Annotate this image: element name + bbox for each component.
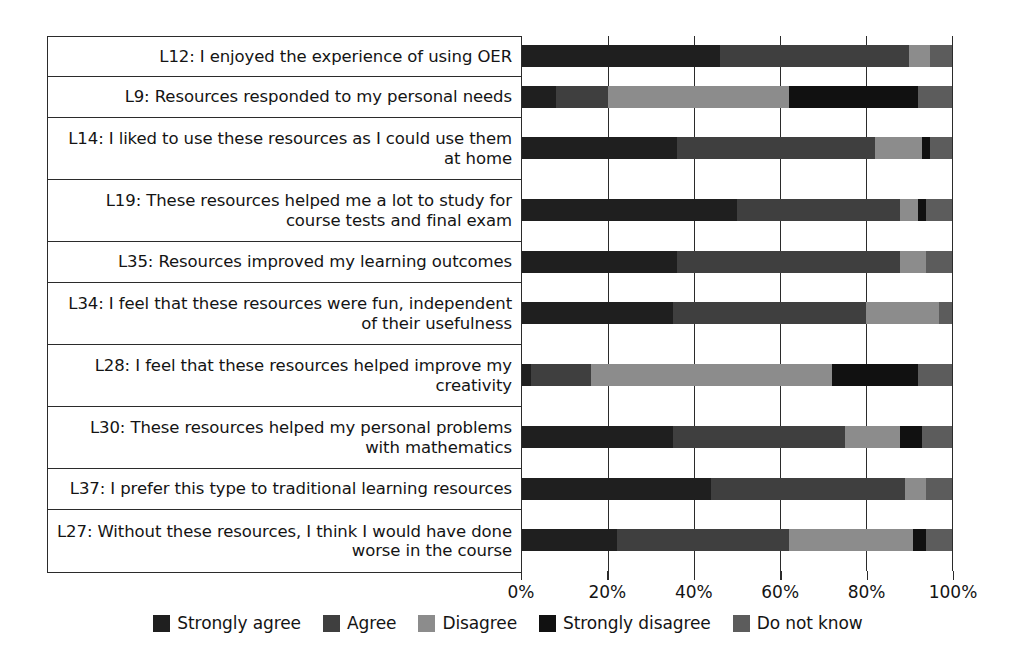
bar-segment bbox=[909, 45, 931, 67]
bar-segment bbox=[926, 478, 952, 500]
bar-segment bbox=[522, 529, 617, 551]
bar-row bbox=[522, 282, 952, 344]
bar-segment bbox=[556, 86, 608, 108]
bar-segment bbox=[845, 426, 901, 448]
legend-swatch-icon bbox=[733, 615, 750, 632]
bar-segment bbox=[711, 478, 905, 500]
x-axis-tick bbox=[867, 571, 868, 580]
bar-segment bbox=[522, 302, 673, 324]
bar-segment bbox=[522, 137, 677, 159]
stacked-bar bbox=[522, 302, 952, 324]
bar-row bbox=[522, 179, 952, 241]
bar-segment bbox=[922, 426, 952, 448]
category-label: L34: I feel that these resources were fu… bbox=[48, 283, 521, 345]
bar-segment bbox=[922, 137, 931, 159]
category-label-column: L12: I enjoyed the experience of using O… bbox=[47, 36, 521, 573]
category-label: L28: I feel that these resources helped … bbox=[48, 345, 521, 407]
bar-segment bbox=[832, 364, 918, 386]
bar-row bbox=[522, 406, 952, 468]
x-axis-tick-label: 100% bbox=[929, 582, 978, 602]
bar-segment bbox=[522, 45, 720, 67]
legend-label: Disagree bbox=[442, 613, 517, 633]
legend-item: Strongly agree bbox=[153, 613, 301, 633]
stacked-bar bbox=[522, 364, 952, 386]
x-axis-tick-label: 20% bbox=[588, 582, 626, 602]
legend-label: Agree bbox=[347, 613, 396, 633]
category-label: L30: These resources helped my personal … bbox=[48, 407, 521, 469]
bar-segment bbox=[926, 529, 952, 551]
bar-segment bbox=[875, 137, 922, 159]
legend-item: Do not know bbox=[733, 613, 863, 633]
bar-segment bbox=[673, 426, 845, 448]
bar-segment bbox=[522, 251, 677, 273]
stacked-bar bbox=[522, 478, 952, 500]
bar-segment bbox=[939, 302, 952, 324]
bar-segment bbox=[608, 86, 789, 108]
bar-segment bbox=[522, 86, 556, 108]
stacked-bar-chart: L12: I enjoyed the experience of using O… bbox=[0, 0, 1016, 649]
x-axis-tick-label: 0% bbox=[508, 582, 535, 602]
category-label: L37: I prefer this type to traditional l… bbox=[48, 469, 521, 510]
bar-segment bbox=[926, 199, 952, 221]
bar-segment bbox=[591, 364, 832, 386]
bar-segment bbox=[900, 199, 917, 221]
bar-row bbox=[522, 468, 952, 509]
x-axis-tick-label: 40% bbox=[675, 582, 713, 602]
bar-segment bbox=[617, 529, 789, 551]
bar-segment bbox=[918, 364, 952, 386]
legend-swatch-icon bbox=[418, 615, 435, 632]
bar-row bbox=[522, 344, 952, 406]
legend-label: Do not know bbox=[757, 613, 863, 633]
stacked-bar bbox=[522, 199, 952, 221]
x-axis-tick-label: 60% bbox=[761, 582, 799, 602]
legend-label: Strongly disagree bbox=[563, 613, 711, 633]
legend-label: Strongly agree bbox=[177, 613, 301, 633]
chart-legend: Strongly agreeAgreeDisagreeStrongly disa… bbox=[0, 613, 1016, 633]
category-label: L12: I enjoyed the experience of using O… bbox=[48, 37, 521, 77]
legend-item: Disagree bbox=[418, 613, 517, 633]
bar-segment bbox=[930, 137, 952, 159]
bar-segment bbox=[905, 478, 927, 500]
category-label: L35: Resources improved my learning outc… bbox=[48, 242, 521, 283]
legend-item: Agree bbox=[323, 613, 396, 633]
legend-swatch-icon bbox=[323, 615, 340, 632]
legend-swatch-icon bbox=[539, 615, 556, 632]
category-label: L14: I liked to use these resources as I… bbox=[48, 118, 521, 180]
category-label: L19: These resources helped me a lot to … bbox=[48, 180, 521, 242]
bar-segment bbox=[677, 251, 901, 273]
stacked-bar bbox=[522, 86, 952, 108]
bar-segment bbox=[900, 251, 926, 273]
bar-segment bbox=[522, 199, 737, 221]
x-axis-ticks bbox=[521, 571, 953, 580]
bar-segment bbox=[522, 478, 711, 500]
bar-row bbox=[522, 76, 952, 117]
stacked-bar bbox=[522, 426, 952, 448]
bar-segment bbox=[531, 364, 591, 386]
bar-row bbox=[522, 36, 952, 76]
x-axis-tick-labels: 0%20%40%60%80%100% bbox=[521, 582, 953, 606]
bar-segment bbox=[522, 426, 673, 448]
bar-segment bbox=[913, 529, 926, 551]
x-axis-tick bbox=[953, 571, 954, 580]
legend-item: Strongly disagree bbox=[539, 613, 711, 633]
bar-row bbox=[522, 241, 952, 282]
bar-segment bbox=[789, 86, 918, 108]
category-label: L9: Resources responded to my personal n… bbox=[48, 77, 521, 118]
bar-segment bbox=[677, 137, 875, 159]
x-axis-tick bbox=[607, 571, 608, 580]
bar-segment bbox=[930, 45, 952, 67]
bar-row bbox=[522, 117, 952, 179]
bar-segment bbox=[926, 251, 952, 273]
plot-area bbox=[521, 36, 953, 571]
category-label: L27: Without these resources, I think I … bbox=[48, 510, 521, 572]
bar-segment bbox=[918, 86, 952, 108]
bar-segment bbox=[900, 426, 922, 448]
stacked-bar bbox=[522, 529, 952, 551]
bar-segment bbox=[737, 199, 900, 221]
x-axis-tick bbox=[521, 571, 522, 580]
bar-segment bbox=[789, 529, 914, 551]
stacked-bar bbox=[522, 137, 952, 159]
bar-segment bbox=[918, 199, 927, 221]
bar-segment bbox=[522, 364, 531, 386]
bar-segment bbox=[673, 302, 867, 324]
